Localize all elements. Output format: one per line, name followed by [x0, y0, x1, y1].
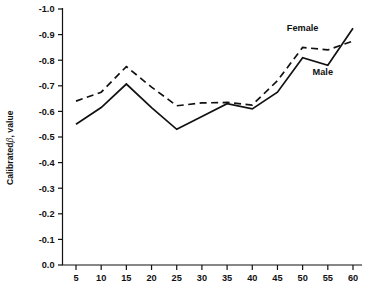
y-tick-label: -0.5 [39, 132, 55, 142]
y-tick-label: -0.8 [39, 56, 55, 66]
series-label-male: Male [313, 67, 333, 77]
series-line-male [76, 28, 353, 129]
y-tick-label: -0.1 [39, 235, 55, 245]
y-tick-label: -0.7 [39, 81, 55, 91]
x-tick-label: 55 [323, 273, 333, 283]
x-tick-label: 35 [222, 273, 232, 283]
y-tick-label: -1.0 [39, 4, 55, 14]
line-chart-plot: -1.0-0.9-0.8-0.7-0.6-0.5-0.4-0.3-0.2-0.1… [0, 0, 369, 299]
x-tick-label: 30 [197, 273, 207, 283]
y-axis-title: Calibratedβ, value [2, 78, 18, 218]
x-tick-label: 40 [247, 273, 257, 283]
x-axis-ticks: 51015202530354045505560 [73, 265, 358, 283]
x-tick-label: 5 [73, 273, 78, 283]
y-tick-label: -0.9 [39, 30, 55, 40]
y-tick-label: 0.0 [42, 260, 55, 270]
chart-axes [63, 8, 363, 265]
y-axis-ticks: -1.0-0.9-0.8-0.7-0.6-0.5-0.4-0.3-0.2-0.1… [39, 4, 63, 270]
y-axis-title-suffix: , value [5, 111, 15, 138]
x-tick-label: 15 [121, 273, 131, 283]
chart-figure: Calibratedβ, value -1.0-0.9-0.8-0.7-0.6-… [0, 0, 369, 299]
x-tick-label: 25 [172, 273, 182, 283]
x-tick-label: 45 [272, 273, 282, 283]
x-tick-label: 10 [96, 273, 106, 283]
y-axis-title-symbol: β [5, 138, 15, 143]
x-tick-label: 60 [348, 273, 358, 283]
series-line-female [76, 41, 353, 106]
series-label-female: Female [287, 23, 319, 33]
x-tick-label: 20 [146, 273, 156, 283]
y-tick-label: -0.4 [39, 158, 56, 168]
y-tick-label: -0.2 [39, 209, 55, 219]
data-series-group [76, 28, 353, 129]
y-tick-label: -0.3 [39, 184, 55, 194]
x-tick-label: 50 [298, 273, 308, 283]
y-axis-title-prefix: Calibrated [5, 143, 15, 186]
y-tick-label: -0.6 [39, 107, 55, 117]
